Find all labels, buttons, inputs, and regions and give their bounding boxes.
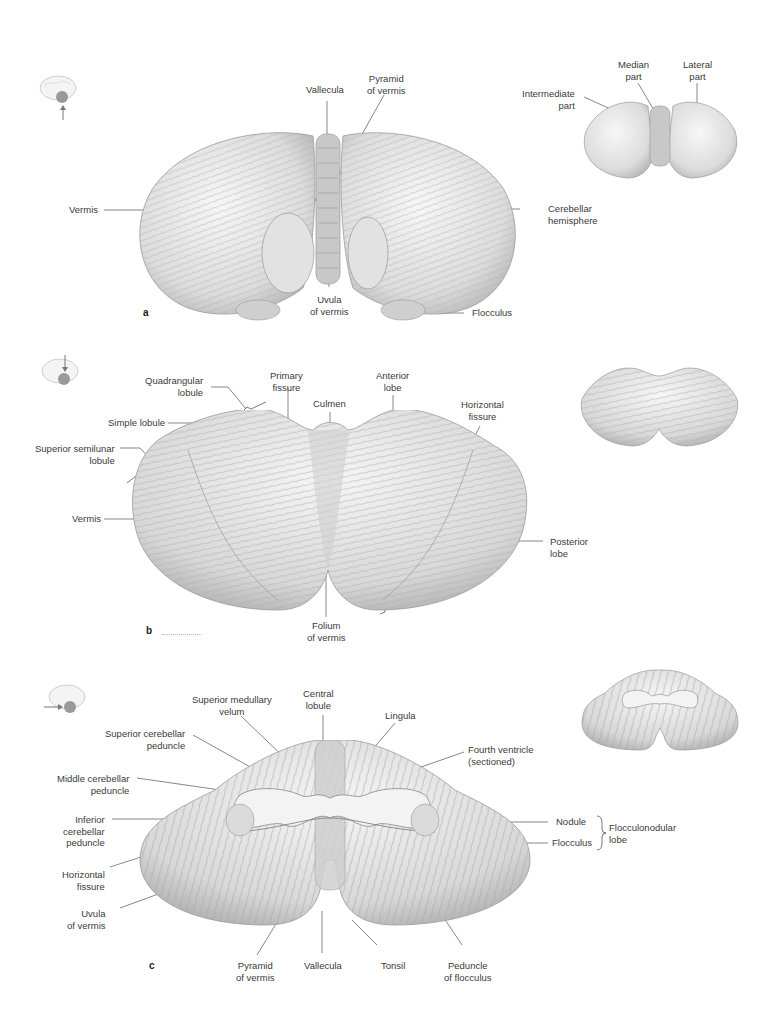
label-text: Superior semilunar	[35, 443, 115, 454]
label-vermis: Vermis	[69, 204, 98, 216]
label-text: Anterior	[376, 370, 409, 381]
label-central-lobule: Central lobule	[303, 688, 334, 711]
label-text: (sectioned)	[468, 756, 515, 767]
cerebellum-superior-view	[128, 410, 538, 620]
label-uvula-of-vermis-c: Uvula of vermis	[67, 908, 106, 931]
label-cerebellar-hemisphere: Cerebellar hemisphere	[548, 203, 598, 226]
label-text: Uvula	[81, 908, 105, 919]
label-text: Vallecula	[304, 960, 342, 971]
label-text: fissure	[468, 411, 496, 422]
label-text: Flocculus	[472, 307, 512, 318]
label-folium-of-vermis: Folium of vermis	[307, 620, 346, 643]
label-flocculus: Flocculus	[472, 307, 512, 319]
label-text: lobe	[609, 834, 627, 845]
label-text: Fourth ventricle	[468, 744, 533, 755]
label-text: Posterior	[550, 536, 588, 547]
panel-letter-b: b	[146, 625, 152, 636]
label-text: Horizontal	[461, 399, 504, 410]
label-text: Simple lobule	[108, 417, 165, 428]
label-inferior-cerebellar-peduncle: Inferior cerebellar peduncle	[63, 814, 105, 849]
label-flocculonodular-lobe: Flocculonodular lobe	[609, 822, 676, 845]
brain-orientation-icon-c	[42, 683, 87, 718]
label-superior-semilunar-lobule: Superior semilunar lobule	[35, 443, 115, 466]
label-text: Primary	[270, 370, 303, 381]
label-intermediate-part: Intermediate part	[522, 88, 575, 111]
label-nodule: Nodule	[556, 816, 586, 828]
cerebellum-inset-superior	[577, 364, 742, 454]
label-text: of flocculus	[444, 972, 492, 983]
label-text: hemisphere	[548, 215, 598, 226]
label-horizontal-fissure-b: Horizontal fissure	[461, 399, 504, 422]
brain-orientation-icon-b	[40, 355, 80, 390]
label-text: Flocculus	[552, 837, 592, 848]
label-text: Folium	[312, 620, 341, 631]
label-lingula: Lingula	[385, 710, 416, 722]
label-text: Peduncle	[448, 960, 488, 971]
label-text: peduncle	[147, 740, 186, 751]
label-median-part: Median part	[618, 59, 649, 82]
label-text: Quadrangular	[145, 375, 203, 386]
label-text: Pyramid	[238, 960, 273, 971]
label-anterior-lobe: Anterior lobe	[376, 370, 409, 393]
label-text: Central	[303, 688, 334, 699]
label-text: Superior cerebellar	[105, 728, 185, 739]
label-uvula-of-vermis: Uvula of vermis	[310, 294, 349, 317]
label-text: lobe	[384, 382, 402, 393]
label-text: Lateral	[683, 59, 712, 70]
label-text: Median	[618, 59, 649, 70]
label-text: of vermis	[310, 306, 349, 317]
label-superior-medullary-velum: Superior medullary velum	[192, 694, 272, 717]
label-text: part	[625, 71, 641, 82]
panel-letter-a: a	[143, 307, 149, 318]
figure-artifact	[162, 634, 202, 636]
cerebellum-inset-anterior	[580, 668, 740, 753]
label-pyramid-of-vermis: Pyramid of vermis	[367, 73, 406, 96]
label-text: Vermis	[72, 513, 101, 524]
label-text: cerebellar	[63, 826, 105, 837]
cerebellum-anterior-view	[135, 740, 535, 930]
label-peduncle-of-flocculus: Peduncle of flocculus	[444, 960, 492, 983]
label-text: Middle cerebellar	[57, 773, 129, 784]
label-text: Lingula	[385, 710, 416, 721]
label-superior-cerebellar-peduncle: Superior cerebellar peduncle	[105, 728, 185, 751]
label-text: Pyramid	[369, 73, 404, 84]
label-flocculus-c: Flocculus	[552, 837, 592, 849]
label-text: peduncle	[66, 837, 105, 848]
label-lateral-part: Lateral part	[683, 59, 712, 82]
label-primary-fissure: Primary fissure	[270, 370, 303, 393]
label-text: fissure	[77, 881, 105, 892]
label-text: of vermis	[236, 972, 275, 983]
label-simple-lobule: Simple lobule	[108, 417, 165, 429]
label-text: of vermis	[367, 85, 406, 96]
label-text: Intermediate	[522, 88, 575, 99]
label-text: Inferior	[75, 814, 105, 825]
label-middle-cerebellar-peduncle: Middle cerebellar peduncle	[57, 773, 129, 796]
label-text: lobule	[178, 387, 203, 398]
label-text: peduncle	[91, 785, 130, 796]
brain-orientation-icon-a	[38, 72, 78, 122]
cerebellum-inset-inferior	[578, 96, 743, 186]
label-text: Culmen	[313, 398, 346, 409]
label-text: lobe	[550, 548, 568, 559]
label-vermis-b: Vermis	[72, 513, 101, 525]
label-vallecula-c: Vallecula	[304, 960, 342, 972]
label-fourth-ventricle: Fourth ventricle (sectioned)	[468, 744, 533, 767]
label-text: of vermis	[307, 632, 346, 643]
label-text: fissure	[272, 382, 300, 393]
label-tonsil: Tonsil	[381, 960, 405, 972]
label-pyramid-of-vermis-c: Pyramid of vermis	[236, 960, 275, 983]
brace-flocculonodular	[595, 815, 607, 851]
label-text: of vermis	[67, 920, 106, 931]
label-text: lobule	[306, 700, 331, 711]
label-text: part	[689, 71, 705, 82]
label-text: Uvula	[317, 294, 341, 305]
label-text: Flocculonodular	[609, 822, 676, 833]
label-vallecula: Vallecula	[306, 84, 344, 96]
label-posterior-lobe: Posterior lobe	[550, 536, 588, 559]
label-text: velum	[219, 706, 244, 717]
label-text: Superior medullary	[192, 694, 272, 705]
label-text: Vallecula	[306, 84, 344, 95]
label-text: lobule	[89, 455, 114, 466]
panel-letter-c: c	[149, 960, 155, 971]
label-horizontal-fissure-c: Horizontal fissure	[62, 869, 105, 892]
